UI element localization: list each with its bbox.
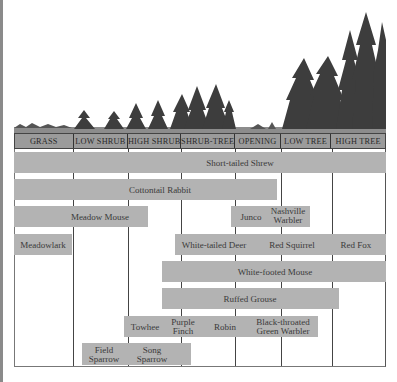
header-high-tree: HIGH TREE (331, 134, 385, 148)
label-ruffed-grouse: Ruffed Grouse (210, 295, 290, 304)
label-btg-warbler-line2: Green Warbler (250, 327, 316, 336)
label-cottontail-rabbit: Cottontail Rabbit (110, 186, 210, 195)
header-grass: GRASS (15, 134, 74, 148)
label-red-squirrel: Red Squirrel (262, 241, 322, 250)
label-robin: Robin (208, 323, 242, 332)
label-short-tailed-shrew: Short-tailed Shrew (190, 159, 290, 168)
label-field-sparrow-line2: Sparrow (84, 355, 124, 364)
header-shrub-tree: SHRUB-TREE (181, 134, 235, 148)
header-high-shrub: HIGH SHRUB (128, 134, 181, 148)
header-low-tree: LOW TREE (281, 134, 332, 148)
label-meadowlark: Meadowlark (14, 241, 72, 250)
label-meadow-mouse: Meadow Mouse (60, 213, 140, 222)
label-nashville-warbler-line2: Warbler (268, 216, 308, 225)
habitat-header: GRASS LOW SHRUB HIGH SHRUB SHRUB-TREE OP… (14, 133, 386, 149)
label-towhee: Towhee (126, 323, 164, 332)
header-low-shrub: LOW SHRUB (74, 134, 129, 148)
column-divider (332, 149, 333, 366)
label-white-tailed-deer: White-tailed Deer (176, 241, 252, 250)
label-song-sparrow-line2: Sparrow (132, 355, 172, 364)
label-purple-finch-line2: Finch (166, 327, 200, 336)
header-opening: OPENING (235, 134, 281, 148)
label-white-footed-mouse: White-footed Mouse (220, 268, 330, 277)
succession-illustration (0, 0, 397, 134)
label-red-fox: Red Fox (334, 241, 378, 250)
label-junco: Junco (234, 213, 268, 222)
